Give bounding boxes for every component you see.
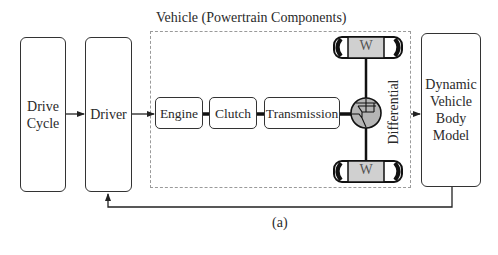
figure-caption: (a) bbox=[272, 215, 288, 231]
differential-label: Differential bbox=[386, 72, 402, 152]
differential-icon bbox=[351, 98, 381, 128]
feedback-line bbox=[108, 187, 452, 207]
diagram-graphics bbox=[0, 0, 498, 255]
top-wheel-label: W bbox=[348, 38, 384, 54]
bottom-wheel-label: W bbox=[348, 162, 384, 178]
